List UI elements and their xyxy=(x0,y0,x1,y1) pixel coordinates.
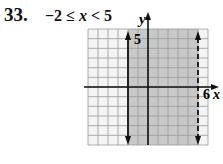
x-tick-label-6: 6 xyxy=(203,87,210,102)
x-axis-label: x xyxy=(212,87,220,102)
coordinate-graph: y 5 6 x xyxy=(0,0,223,164)
y-axis-label: y xyxy=(137,11,146,27)
y-tick-label-5: 5 xyxy=(134,32,141,47)
